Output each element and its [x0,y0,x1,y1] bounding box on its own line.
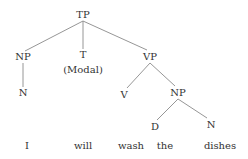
node-t: T [80,49,87,60]
node-n2: N [207,119,216,130]
edge-np2-d [157,99,178,120]
edge-vp-v [127,63,150,88]
word-i: I [25,140,29,151]
word-wash: wash [118,140,145,151]
word-the: the [157,140,173,151]
node-d: D [151,121,159,132]
node-n1: N [19,87,28,98]
node-tp: TP [76,9,90,20]
edge-np2-n2 [178,99,207,118]
node-modal: (Modal) [63,64,103,75]
word-dishes: dishes [204,140,236,151]
edge-vp-np2 [150,63,175,86]
node-vp: VP [142,51,157,62]
edge-tp-vp [83,21,147,50]
tree-edges [23,21,207,120]
tree-nodes: TPNPT(Modal)VPNVNPDN [15,9,215,132]
node-np1: NP [15,51,31,62]
edge-tp-np1 [25,21,83,51]
sentence-words: Iwillwashthedishes [25,140,236,151]
syntax-tree: TPNPT(Modal)VPNVNPDN Iwillwashthedishes [0,0,248,159]
node-v: V [119,89,128,100]
word-will: will [74,140,92,151]
node-np2: NP [170,87,186,98]
